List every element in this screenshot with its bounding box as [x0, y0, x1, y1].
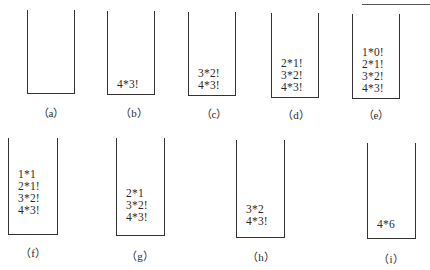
stack-items: 3*2! 4*3! — [189, 67, 235, 91]
stack-frame: 3*2 — [246, 203, 264, 215]
stack-frame: 2*1 — [126, 187, 144, 199]
stack-frame: 4*3! — [362, 82, 384, 94]
stack-frame: 4*3! — [198, 79, 220, 91]
stack-items: 2*1 3*2! 4*3! — [117, 187, 164, 223]
stack-a — [27, 10, 75, 94]
stack-frame: 4*3! — [281, 81, 303, 93]
stack-label-b: （b） — [120, 104, 148, 120]
stack-e: 1*0! 2*1! 3*2! 4*3! — [352, 14, 400, 99]
stack-frame: 4*3! — [246, 215, 268, 227]
stack-items: 4*3! — [108, 78, 154, 90]
stack-frame: 4*3! — [18, 204, 40, 216]
stack-items: 2*1! 3*2! 4*3! — [272, 57, 318, 93]
stack-frame: 2*1! — [362, 58, 384, 70]
stack-frame: 3*2! — [362, 70, 384, 82]
stack-label-f: （f） — [20, 244, 46, 260]
stack-i: 4*6 — [367, 143, 416, 239]
stack-frame: 1*1 — [18, 168, 36, 180]
stack-h: 3*2 4*3! — [236, 140, 285, 238]
stack-frame: 1*0! — [362, 46, 384, 58]
stack-frame: 3*2! — [126, 199, 148, 211]
stack-items: 1*0! 2*1! 3*2! 4*3! — [353, 46, 399, 94]
stack-label-a: （a） — [38, 104, 65, 120]
stack-items: 4*6 — [368, 218, 415, 230]
stack-frame: 4*3! — [126, 211, 148, 223]
stack-frame: 4*6 — [377, 218, 395, 230]
stack-items: 3*2 4*3! — [237, 203, 284, 227]
stack-f: 1*1 2*1! 3*2! 4*3! — [8, 138, 58, 235]
stack-frame: 2*1! — [18, 180, 40, 192]
stack-label-d: （d） — [282, 106, 310, 122]
stack-d: 2*1! 3*2! 4*3! — [271, 13, 319, 98]
stack-label-e: （e） — [363, 106, 390, 122]
stack-b: 4*3! — [107, 11, 155, 95]
stack-frame: 3*2! — [18, 192, 40, 204]
stack-label-h: （h） — [247, 248, 275, 264]
stack-label-c: （c） — [201, 105, 228, 121]
stack-frame: 3*2! — [281, 69, 303, 81]
top-rule-line — [362, 4, 430, 5]
stack-frame: 3*2! — [198, 67, 220, 79]
stack-frame: 2*1! — [281, 57, 303, 69]
stack-frame: 4*3! — [117, 78, 139, 90]
stack-label-i: （i） — [378, 250, 403, 266]
stack-label-g: （g） — [126, 247, 154, 263]
stack-items: 1*1 2*1! 3*2! 4*3! — [9, 168, 57, 216]
stack-c: 3*2! 4*3! — [188, 12, 236, 96]
stack-g: 2*1 3*2! 4*3! — [116, 138, 165, 236]
